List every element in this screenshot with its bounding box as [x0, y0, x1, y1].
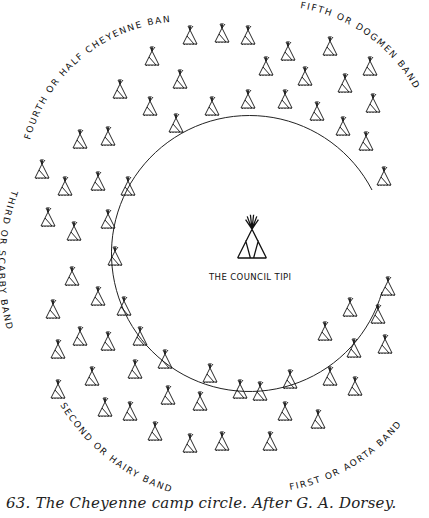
figure-caption: 63. The Cheyenne camp circle. After G. A…: [6, 494, 396, 512]
band-label-first: FIRST OR AORTA BAND: [289, 418, 404, 492]
camp-circle-diagram: FOURTH OR HALF CHEYENNE BAND FIFTH OR DO…: [0, 0, 429, 518]
council-tipi-icon: [238, 215, 267, 258]
band-label-fifth: FIFTH OR DOGMEN BAND: [300, 0, 422, 91]
band-label-fourth: FOURTH OR HALF CHEYENNE BAND: [0, 0, 172, 141]
camp-circle-arc: [111, 116, 382, 392]
council-tipi-label: THE COUNCIL TIPI: [209, 272, 291, 282]
tipi-group: [35, 23, 395, 453]
band-label-second: SECOND OR HAIRY BAND: [58, 401, 174, 495]
band-label-third: THIRD OR SCABBY BAND: [0, 188, 20, 331]
